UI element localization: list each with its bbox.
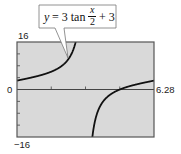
y-min-label: −16 (14, 140, 30, 150)
eq-frac-num: x (90, 4, 94, 15)
equation-label: y = 3 tan x 2 + 3 (39, 4, 116, 28)
eq-y: y (44, 10, 49, 25)
eq-frac-den: 2 (90, 16, 95, 27)
eq-suffix: + 3 (99, 10, 115, 25)
x-max-label: 6.28 (156, 85, 175, 95)
y-max-label: 16 (18, 31, 29, 41)
x-min-label: 0 (7, 85, 12, 95)
eq-prefix: = 3 tan (52, 10, 85, 25)
